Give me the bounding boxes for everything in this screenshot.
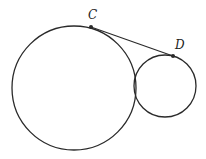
point-c: [89, 25, 93, 29]
label-d: D: [174, 38, 185, 52]
diagram-canvas: C D: [0, 0, 206, 159]
tangent-circles-figure: C D: [0, 0, 206, 159]
label-c: C: [88, 8, 97, 22]
small-circle: [134, 55, 196, 117]
large-circle: [12, 26, 136, 150]
point-d: [171, 54, 175, 58]
tangent-segment-cd: [91, 27, 173, 56]
